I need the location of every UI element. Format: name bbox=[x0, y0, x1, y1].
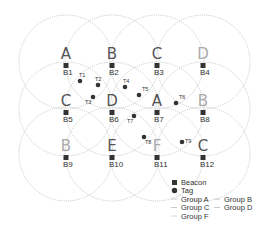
tag-label: T4 bbox=[123, 78, 129, 84]
tag-label: T8 bbox=[145, 139, 151, 145]
beacon-label: B11 bbox=[154, 160, 168, 169]
beacon-label: B10 bbox=[109, 160, 124, 169]
beacon-coverage-diagram: ABCDCDABBEFC B1B2B3B4B5B6B7B8B9B10B11B12… bbox=[0, 0, 266, 232]
beacons: B1B2B3B4B5B6B7B8B9B10B11B12 bbox=[63, 63, 215, 169]
beacon-label: B2 bbox=[109, 68, 119, 77]
beacon-label: B6 bbox=[109, 115, 119, 124]
group-letter: F bbox=[153, 137, 162, 155]
tag-icon bbox=[123, 85, 128, 90]
group-letter: C bbox=[61, 92, 71, 110]
tag-icon bbox=[180, 140, 185, 145]
beacon-label: B4 bbox=[200, 68, 210, 77]
beacon-label: B7 bbox=[154, 115, 164, 124]
tag-icon bbox=[96, 83, 101, 88]
tags: T1T2T3T4T5T6T7T8T9 bbox=[78, 72, 192, 145]
tag-icon bbox=[137, 93, 142, 98]
group-letter: C bbox=[152, 45, 162, 63]
group-letter: A bbox=[61, 45, 72, 63]
beacon-label: B3 bbox=[154, 68, 164, 77]
group-letter: D bbox=[106, 92, 118, 110]
tag-label: T6 bbox=[179, 94, 185, 100]
group-letter: B bbox=[107, 45, 117, 63]
tag-label: T5 bbox=[142, 86, 148, 92]
coverage-circles bbox=[19, 15, 250, 201]
group-letter: A bbox=[152, 92, 163, 110]
group-letter: E bbox=[107, 137, 116, 155]
beacon-label: B5 bbox=[63, 115, 73, 124]
tag-label: T3 bbox=[85, 99, 91, 105]
beacon-label: B1 bbox=[63, 68, 73, 77]
beacon-label: B12 bbox=[200, 160, 215, 169]
group-letter: D bbox=[197, 45, 209, 63]
tag-icon bbox=[78, 79, 83, 84]
tag-label: T1 bbox=[79, 72, 85, 78]
tag-label: T9 bbox=[185, 138, 191, 144]
group-letter: B bbox=[198, 92, 208, 110]
beacon-label: B8 bbox=[200, 115, 210, 124]
tag-legend-icon bbox=[172, 188, 177, 193]
tag-icon bbox=[174, 101, 179, 106]
tag-label: T7 bbox=[127, 118, 133, 124]
legend-group-f: Group F bbox=[181, 212, 209, 221]
group-letter: B bbox=[61, 137, 71, 155]
legend: Beacon Tag Group A Group B Group C Group… bbox=[171, 178, 253, 221]
tag-label: T2 bbox=[95, 76, 101, 82]
beacon-legend-icon bbox=[172, 180, 177, 185]
beacon-label: B9 bbox=[63, 160, 73, 169]
legend-group-d: Group D bbox=[224, 203, 253, 212]
group-letter: C bbox=[198, 137, 208, 155]
